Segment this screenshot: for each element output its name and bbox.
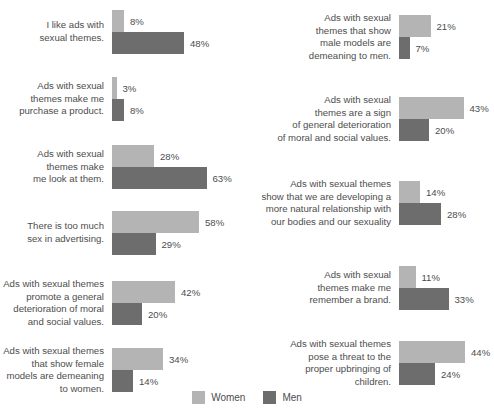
bar-group-bars: 34%14% [112,348,249,392]
legend-swatch-men-icon [263,391,276,404]
bar-women[interactable] [112,10,124,32]
bar-row-men: 33% [399,288,494,310]
bar-row-men: 14% [112,370,249,392]
bar-value-men: 8% [124,105,144,116]
bar-value-men: 28% [441,209,466,220]
bar-women[interactable] [399,266,416,288]
bar-value-men: 14% [133,376,158,387]
bar-value-men: 33% [449,294,474,305]
bar-group-label: Ads with sexual themesshow that we are d… [253,178,399,228]
bar-row-men: 63% [112,167,249,189]
bar-value-men: 7% [410,43,430,54]
bar-value-women: 44% [465,347,490,358]
bar-value-men: 29% [156,239,181,250]
left-column: I like ads withsexual themes.8%48%Ads wi… [0,0,247,390]
bar-group-label: Ads with sexualthemes that showmale mode… [253,12,399,62]
bar-group-label: There is too muchsex in advertising. [2,220,112,245]
bar-group-bars: 8%48% [112,10,249,54]
bar-row-women: 8% [112,10,249,32]
bar-women[interactable] [112,211,199,233]
bar-group-bars: 44%24% [399,341,494,385]
bar-value-men: 20% [429,125,454,136]
legend-swatch-women-icon [192,391,205,404]
bar-women[interactable] [112,281,175,303]
bar-group-label: Ads with sexualthemes make meremember a … [253,269,399,307]
bar-value-women: 3% [117,83,137,94]
bar-men[interactable] [399,363,435,385]
bar-value-men: 63% [207,173,232,184]
bar-row-men: 7% [399,37,494,59]
chart-legend: Women Men [0,391,494,404]
bar-men[interactable] [399,119,429,141]
bar-row-men: 29% [112,233,249,255]
bar-group: There is too muchsex in advertising.58%2… [0,211,249,255]
bar-value-men: 20% [142,309,167,320]
bar-row-women: 42% [112,281,249,303]
bar-row-men: 24% [399,363,494,385]
bar-row-women: 34% [112,348,249,370]
chart-columns: I like ads withsexual themes.8%48%Ads wi… [0,0,494,390]
bar-women[interactable] [112,145,154,167]
bar-group-bars: 42%20% [112,281,249,325]
bar-row-men: 28% [399,203,494,225]
bar-row-women: 28% [112,145,249,167]
bar-value-women: 21% [431,21,456,32]
bar-row-women: 11% [399,266,494,288]
bar-men[interactable] [112,303,142,325]
bar-women[interactable] [399,181,420,203]
legend-label-men: Men [282,392,301,403]
bar-row-men: 20% [112,303,249,325]
bar-men[interactable] [112,167,207,189]
bar-men[interactable] [112,233,156,255]
bar-group-bars: 11%33% [399,266,494,310]
bar-row-men: 20% [399,119,494,141]
bar-value-women: 34% [163,354,188,365]
bar-row-women: 58% [112,211,249,233]
bar-men[interactable] [399,288,449,310]
bar-row-women: 44% [399,341,494,363]
bar-row-men: 8% [112,99,249,121]
bar-group-label: Ads with sexualthemes makeme look at the… [2,148,112,186]
bar-group-label: Ads with sexualthemes make mepurchase a … [2,80,112,118]
bar-women[interactable] [399,97,464,119]
bar-value-women: 8% [124,16,144,27]
bar-value-men: 24% [435,369,460,380]
bar-women[interactable] [399,341,465,363]
legend-label-women: Women [211,392,245,403]
bar-row-men: 48% [112,32,249,54]
legend-item-women[interactable]: Women [192,391,245,404]
bar-group: Ads with sexualthemes make meremember a … [247,266,494,310]
bar-group-bars: 3%8% [112,77,249,121]
bar-group: Ads with sexual themespromote a generald… [0,278,249,328]
grouped-bar-chart: I like ads withsexual themes.8%48%Ads wi… [0,0,494,413]
bar-men[interactable] [112,32,184,54]
bar-value-women: 43% [464,103,489,114]
bar-group: Ads with sexual themesshow that we are d… [247,178,494,228]
bar-men[interactable] [399,37,410,59]
bar-women[interactable] [112,348,163,370]
bar-value-women: 28% [154,151,179,162]
bar-row-women: 3% [112,77,249,99]
bar-men[interactable] [112,99,124,121]
bar-value-women: 11% [416,272,441,283]
legend-item-men[interactable]: Men [263,391,301,404]
bar-group: Ads with sexualthemes that showmale mode… [247,12,494,62]
bar-group: Ads with sexualthemes make mepurchase a … [0,77,249,121]
bar-group: Ads with sexual themesthat show femalemo… [0,345,249,395]
bar-group-label: Ads with sexualthemes are a signof gener… [253,94,399,144]
bar-men[interactable] [112,370,133,392]
bar-group-bars: 58%29% [112,211,249,255]
bar-value-women: 42% [175,287,200,298]
bar-group-label: Ads with sexual themespose a threat to t… [253,338,399,388]
right-column: Ads with sexualthemes that showmale mode… [247,0,494,390]
bar-group-label: Ads with sexual themesthat show femalemo… [2,345,112,395]
bar-group-bars: 21%7% [399,15,494,59]
bar-women[interactable] [399,15,431,37]
bar-group-bars: 43%20% [399,97,494,141]
bar-group: Ads with sexualthemes are a signof gener… [247,94,494,144]
bar-value-men: 48% [184,38,209,49]
bar-group: Ads with sexual themespose a threat to t… [247,338,494,388]
bar-row-women: 43% [399,97,494,119]
bar-row-women: 14% [399,181,494,203]
bar-men[interactable] [399,203,441,225]
